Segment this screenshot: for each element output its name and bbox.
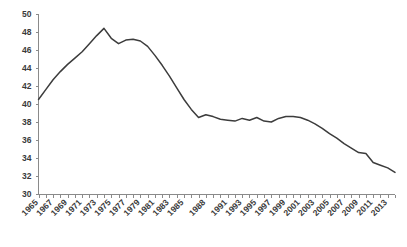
x-axis-tick-label: 1985 — [165, 197, 186, 218]
y-axis-tick-label: 32 — [22, 171, 32, 181]
x-axis-tick-label: 2013 — [369, 197, 390, 218]
line-chart: 3032343638404244464850 19651967196919711… — [0, 0, 407, 247]
y-axis-tick-label: 40 — [22, 99, 32, 109]
x-axis-tick-marks — [40, 195, 396, 198]
x-axis-tick-label: 1988 — [187, 197, 208, 218]
y-axis-tick-label: 50 — [22, 9, 32, 19]
chart-canvas: 3032343638404244464850 19651967196919711… — [0, 0, 407, 247]
y-axis-tick-label: 46 — [22, 45, 32, 55]
y-axis-tick-label: 36 — [22, 135, 32, 145]
y-axis-tick-label: 30 — [22, 189, 32, 199]
y-axis-tick-label: 38 — [22, 117, 32, 127]
y-axis-tick-label: 34 — [22, 153, 32, 163]
y-axis-tick-label: 48 — [22, 27, 32, 37]
x-axis-tick-labels: 1965196719691971197319751977197919811983… — [19, 197, 389, 218]
y-axis-tick-label: 42 — [22, 81, 32, 91]
y-axis-tick-label: 44 — [22, 63, 32, 73]
data-series-line — [39, 28, 396, 172]
y-axis-tick-labels: 3032343638404244464850 — [22, 9, 32, 199]
